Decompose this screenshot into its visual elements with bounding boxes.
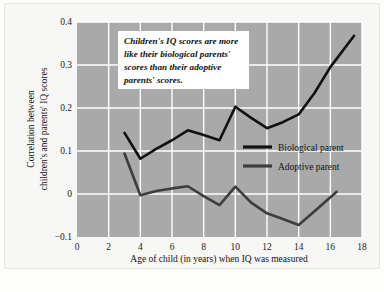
y-tick-label: 0.2 <box>60 103 72 113</box>
x-tick-label: 16 <box>326 242 336 252</box>
x-tick-label: 6 <box>170 242 175 252</box>
x-tick-label: 12 <box>262 242 272 252</box>
y-tick-label: −0.1 <box>55 232 72 242</box>
y-axis-title-line-2: children's and parents' IQ scores <box>39 67 49 190</box>
y-axis-tick-labels: −0.100.10.20.30.4 <box>55 17 72 242</box>
legend-label-biological-parent: Biological parent <box>278 143 344 153</box>
annotation-callout: Children's IQ scores are morelike their … <box>118 31 249 89</box>
y-tick-label: 0.3 <box>60 60 72 70</box>
figure-container: −0.100.10.20.30.4 024681012141618 Correl… <box>0 0 384 292</box>
x-axis-title: Age of child (in years) when IQ was meas… <box>130 254 308 265</box>
y-tick-label: 0 <box>67 189 72 199</box>
y-tick-label: 0.1 <box>60 146 72 156</box>
x-tick-label: 2 <box>106 242 111 252</box>
x-tick-label: 10 <box>231 242 241 252</box>
chart-canvas: −0.100.10.20.30.4 024681012141618 Correl… <box>0 0 384 292</box>
y-axis-title-line-1: Correlation between <box>26 90 36 168</box>
x-tick-label: 0 <box>75 242 80 252</box>
legend-label-adoptive-parent: Adoptive parent <box>278 162 340 172</box>
annotation-line: like their biological parents' <box>124 49 231 59</box>
annotation-line: parents' scores. <box>123 75 183 85</box>
x-axis-tick-labels: 024681012141618 <box>75 242 367 252</box>
x-tick-label: 8 <box>201 242 206 252</box>
x-tick-label: 18 <box>357 242 367 252</box>
x-tick-label: 14 <box>294 242 304 252</box>
y-tick-label: 0.4 <box>60 17 72 27</box>
annotation-line: Children's IQ scores are more <box>124 36 238 46</box>
annotation-line: scores than their adoptive <box>123 62 221 72</box>
x-tick-label: 4 <box>138 242 143 252</box>
